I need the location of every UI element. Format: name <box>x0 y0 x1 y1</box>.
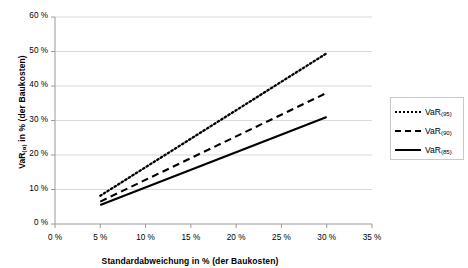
legend-item[interactable]: VaR(90) <box>395 123 463 139</box>
y-axis-title: VaR(α) in % (der Baukosten) <box>11 42 25 182</box>
legend-label-subscript: (95) <box>441 110 452 117</box>
legend-label-base: VaR <box>425 107 441 117</box>
series-line-95 <box>100 53 326 195</box>
legend-line-sample-icon <box>395 126 421 136</box>
x-axis-title-text: Standardabweichung in % (der Baukosten) <box>102 256 279 266</box>
legend-label-base: VaR <box>425 145 441 155</box>
x-axis-tick-label: 10 % <box>131 233 161 242</box>
chart-legend: VaR(95)VaR(90)VaR(85) <box>390 97 464 160</box>
x-axis-tick-label: 15 % <box>176 233 206 242</box>
y-axis-tick-label: 10 % <box>14 184 48 193</box>
x-axis-title: Standardabweichung in % (der Baukosten) <box>0 250 380 264</box>
x-axis-tick-label: 35 % <box>357 233 387 242</box>
chart-container: 0 %10 %20 %30 %40 %50 %60 % 0 %5 %10 %15… <box>0 0 468 268</box>
x-axis-tick-label: 20 % <box>221 233 251 242</box>
legend-item-label: VaR(85) <box>425 145 452 155</box>
x-axis-tick-label: 0 % <box>40 233 70 242</box>
legend-item[interactable]: VaR(95) <box>395 104 463 120</box>
y-axis-title-rest: in % (der Baukosten) <box>17 55 27 144</box>
legend-item-label: VaR(90) <box>425 126 452 136</box>
x-axis-tick-label: 5 % <box>85 233 115 242</box>
x-axis-tick-label: 25 % <box>266 233 296 242</box>
y-axis-tick-label: 60 % <box>14 11 48 20</box>
legend-label-subscript: (85) <box>441 148 452 155</box>
legend-line-sample-icon <box>395 107 421 117</box>
series-line-90 <box>100 93 326 202</box>
y-axis-title-base: VaR <box>17 152 27 168</box>
legend-label-base: VaR <box>425 126 441 136</box>
legend-label-subscript: (90) <box>441 129 452 136</box>
legend-line-sample-icon <box>395 145 421 155</box>
y-axis-tick-label: 0 % <box>14 218 48 227</box>
series-line-85 <box>100 117 326 205</box>
x-axis-tick-label: 30 % <box>312 233 342 242</box>
legend-item-label: VaR(95) <box>425 107 452 117</box>
legend-item[interactable]: VaR(85) <box>395 142 463 158</box>
y-axis-title-subscript: (α) <box>20 144 27 152</box>
